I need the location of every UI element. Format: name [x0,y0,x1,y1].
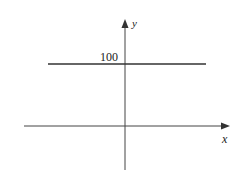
x-axis-label: x [221,132,228,146]
y-axis-arrow-icon [122,19,129,28]
intercept-label: 100 [100,50,118,64]
x-axis-arrow-icon [221,123,230,130]
y-axis-label: y [131,17,137,29]
chart-canvas: 100 y x [0,0,239,180]
